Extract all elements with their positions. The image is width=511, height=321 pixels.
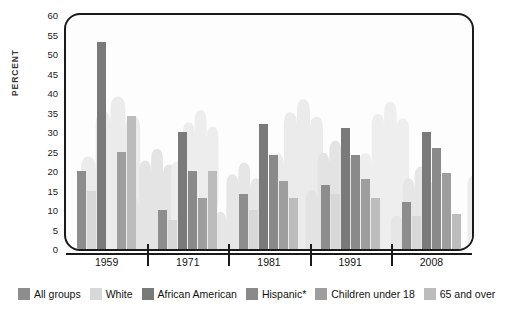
bar (432, 148, 441, 249)
bar (289, 198, 298, 249)
bar (87, 191, 96, 250)
bar (158, 210, 167, 249)
bar (168, 220, 177, 249)
x-axis-separator-tick (391, 244, 393, 266)
legend-swatch-icon (142, 288, 154, 300)
bar (321, 185, 330, 249)
x-axis-label: 2008 (420, 256, 443, 268)
bar (452, 214, 461, 249)
bar (127, 116, 136, 249)
y-axis-tick-label: 45 (28, 68, 58, 79)
legend-label: African American (158, 288, 237, 300)
legend-item: White (90, 288, 133, 300)
bar (279, 181, 288, 249)
bar (117, 152, 126, 250)
y-axis-tick-label: 30 (28, 127, 58, 138)
legend-swatch-icon (315, 288, 327, 300)
bar (198, 198, 207, 249)
y-axis-tick-label: 35 (28, 107, 58, 118)
bar-group (310, 15, 391, 249)
bar (361, 179, 370, 249)
legend-swatch-icon (424, 288, 436, 300)
legend-label: Children under 18 (331, 288, 414, 300)
y-axis-ticks: 605550454035302520151050 (28, 8, 58, 253)
bar-group (147, 15, 228, 249)
legend-item: All groups (18, 288, 81, 300)
y-axis-tick-label: 0 (28, 244, 58, 255)
bar-group (391, 15, 472, 249)
bar (97, 42, 106, 249)
bar (208, 171, 217, 249)
bar (371, 198, 380, 249)
y-axis-tick-label: 40 (28, 88, 58, 99)
legend-swatch-icon (90, 288, 102, 300)
y-axis-tick-label: 50 (28, 49, 58, 60)
poverty-rate-bar-chart: PERCENT 605550454035302520151050 (0, 0, 511, 321)
x-axis-separator-tick (310, 244, 312, 266)
x-axis-label: 1981 (257, 256, 280, 268)
y-axis-tick-label: 60 (28, 10, 58, 21)
legend-swatch-icon (246, 288, 258, 300)
y-axis-tick-label: 25 (28, 146, 58, 157)
bar (442, 173, 451, 249)
chart-legend: All groupsWhiteAfrican AmericanHispanic*… (18, 288, 508, 300)
x-axis-separator-tick (228, 244, 230, 266)
bar (402, 202, 411, 249)
x-axis-line (66, 253, 472, 255)
bars-container (66, 15, 472, 249)
legend-label: White (106, 288, 133, 300)
legend-item: Children under 18 (315, 288, 414, 300)
legend-item: 65 and over (424, 288, 495, 300)
x-axis-label: 1959 (95, 256, 118, 268)
bar (269, 155, 278, 249)
legend-item: African American (142, 288, 237, 300)
legend-label: 65 and over (440, 288, 495, 300)
legend-label: All groups (34, 288, 81, 300)
y-axis-tick-label: 5 (28, 224, 58, 235)
y-axis-tick-label: 20 (28, 166, 58, 177)
legend-item: Hispanic* (246, 288, 306, 300)
y-axis-title: PERCENT (10, 16, 20, 96)
bar (422, 132, 431, 249)
bar (178, 132, 187, 249)
bar (188, 171, 197, 249)
bar (239, 194, 248, 249)
plot-area (64, 13, 474, 251)
bar (259, 124, 268, 249)
bar (341, 128, 350, 249)
bar-group (228, 15, 309, 249)
y-axis-tick-label: 55 (28, 29, 58, 40)
bar (249, 210, 258, 249)
bar-group (66, 15, 147, 249)
legend-label: Hispanic* (262, 288, 306, 300)
y-axis-tick-label: 10 (28, 205, 58, 216)
x-axis-label: 1971 (176, 256, 199, 268)
x-axis-label: 1991 (339, 256, 362, 268)
bar (351, 155, 360, 249)
bar (412, 216, 421, 249)
x-axis-separator-tick (147, 244, 149, 266)
legend-swatch-icon (18, 288, 30, 300)
y-axis-tick-label: 15 (28, 185, 58, 196)
bar (331, 194, 340, 249)
bar (77, 171, 86, 249)
